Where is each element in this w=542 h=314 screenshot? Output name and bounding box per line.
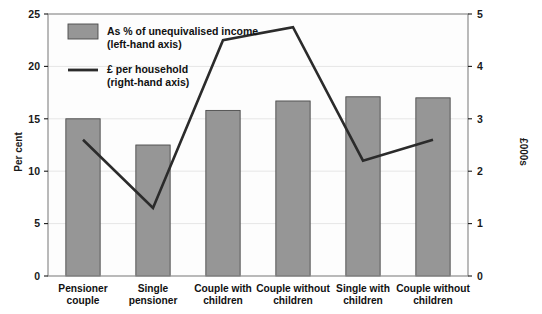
y-axis-left: 0510152025: [28, 8, 48, 282]
x-axis-category-label: Couple without: [396, 283, 470, 294]
legend-label-primary: £ per household: [107, 63, 188, 75]
legend-swatch-bar: [68, 24, 98, 39]
legend-label-secondary: (right-hand axis): [107, 76, 189, 88]
x-axis-category-label: children: [343, 295, 383, 306]
legend-label-primary: As % of unequivalised income: [107, 25, 258, 37]
x-axis-category-label: Single with: [336, 283, 390, 294]
y-axis-right-tick-label: 3: [477, 113, 483, 125]
y-axis-right-tick-label: 5: [477, 8, 483, 20]
y-axis-left-tick-label: 25: [28, 8, 40, 20]
x-axis-category-label: pensioner: [129, 295, 178, 306]
y-axis-right: 012345: [468, 8, 483, 282]
x-axis-category-label: children: [273, 295, 313, 306]
y-axis-right-tick-label: 2: [477, 165, 483, 177]
bar: [416, 98, 450, 276]
x-axis-category-label: Couple with: [194, 283, 252, 294]
bar: [206, 110, 240, 276]
y-axis-right-tick-label: 0: [477, 270, 483, 282]
chart-container: 0510152025 012345 PensionercoupleSinglep…: [0, 0, 542, 314]
y-axis-left-tick-label: 0: [34, 270, 40, 282]
x-axis-category-label: children: [203, 295, 243, 306]
bar: [276, 101, 310, 276]
x-axis-category-label: Couple without: [256, 283, 330, 294]
y-axis-right-title: £000s: [518, 138, 529, 166]
legend-label-secondary: (left-hand axis): [107, 38, 182, 50]
y-axis-left-tick-label: 15: [28, 113, 40, 125]
bar: [136, 145, 170, 276]
bar: [346, 97, 380, 276]
y-axis-left-tick-label: 10: [28, 165, 40, 177]
y-axis-left-tick-label: 5: [34, 217, 40, 229]
dual-axis-bar-line-chart: 0510152025 012345 PensionercoupleSinglep…: [0, 0, 542, 314]
x-axis-category-label: children: [413, 295, 453, 306]
y-axis-right-tick-label: 1: [477, 217, 483, 229]
y-axis-left-tick-label: 20: [28, 60, 40, 72]
y-axis-right-tick-label: 4: [477, 60, 483, 72]
y-axis-left-title: Per cent: [13, 132, 24, 172]
x-axis-category-label: couple: [67, 295, 100, 306]
x-axis-category-label: Pensioner: [58, 283, 107, 294]
plot-area-background: [48, 14, 468, 276]
bar: [66, 119, 100, 276]
x-axis-category-label: Single: [138, 283, 169, 294]
x-axis-categories: PensionercoupleSinglepensionerCouple wit…: [58, 283, 470, 306]
